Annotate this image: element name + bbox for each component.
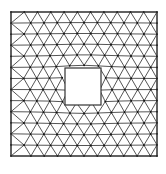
mesh-node: [117, 100, 119, 102]
mesh-node: [62, 101, 64, 103]
mesh-edge: [37, 112, 43, 123]
mesh-node: [30, 44, 32, 46]
mesh-node: [130, 100, 132, 102]
mesh-edge: [117, 12, 124, 23]
mesh-edge: [56, 78, 62, 90]
mesh-edge: [30, 101, 36, 112]
mesh-node: [70, 134, 72, 136]
mesh-node: [97, 22, 99, 24]
mesh-edge: [105, 55, 112, 66]
mesh-node: [143, 78, 145, 80]
mesh-edge: [77, 12, 84, 23]
mesh-edge: [138, 112, 145, 123]
mesh-edge: [56, 66, 69, 67]
mesh-edge: [131, 134, 138, 145]
mesh-edge: [64, 113, 70, 124]
mesh-edge: [138, 67, 145, 78]
mesh-edge: [44, 23, 51, 34]
mesh-node: [118, 77, 120, 79]
mesh-edge: [131, 90, 138, 101]
mesh-edge: [118, 112, 125, 123]
mesh-edge: [111, 23, 118, 34]
mesh-edge: [11, 112, 24, 123]
mesh-edge: [11, 34, 24, 45]
mesh-edge: [104, 12, 111, 23]
mesh-edge: [11, 134, 24, 145]
mesh-edge: [63, 55, 69, 66]
mesh-edge: [91, 55, 98, 66]
mesh-edge: [118, 90, 125, 102]
mesh-edge: [24, 23, 31, 34]
mesh-node: [111, 66, 113, 68]
mesh-edge: [105, 102, 111, 113]
mesh-node: [30, 133, 32, 135]
mesh-edge: [77, 34, 84, 45]
mesh-node: [105, 77, 107, 79]
mesh-edge: [24, 112, 31, 123]
mesh-edge: [151, 112, 157, 123]
mesh-edge: [144, 101, 151, 112]
mesh-edge: [51, 12, 58, 23]
mesh-edge: [117, 134, 124, 145]
mesh-node: [90, 33, 92, 35]
mesh-node: [36, 55, 38, 57]
mesh-node: [83, 64, 85, 66]
mesh-node: [29, 89, 31, 91]
mesh-node: [90, 54, 92, 56]
mesh-edge: [71, 12, 78, 23]
mesh-edge: [131, 23, 138, 34]
mesh-edge: [111, 12, 118, 23]
mesh-edge: [112, 90, 118, 101]
mesh-edge: [91, 12, 98, 23]
mesh-node: [50, 33, 52, 35]
mesh-node: [150, 111, 152, 113]
mesh-node: [150, 89, 152, 91]
mesh-edge: [44, 112, 51, 123]
mesh-node: [137, 89, 139, 91]
inner-hole: [65, 68, 101, 105]
mesh-edge: [111, 123, 118, 134]
mesh-node: [150, 44, 152, 46]
mesh-edge: [50, 101, 63, 102]
mesh-edge: [56, 67, 62, 78]
mesh-edge: [24, 67, 31, 78]
mesh-edge: [91, 135, 98, 146]
mesh-edge: [30, 90, 37, 101]
mesh-edge: [137, 123, 144, 134]
mesh-edge: [151, 23, 158, 34]
mesh-node: [23, 144, 25, 146]
mesh-edge: [98, 113, 111, 114]
mesh-edge: [91, 44, 98, 55]
mesh-node: [103, 33, 105, 35]
mesh-node: [117, 144, 119, 146]
mesh-edge: [151, 101, 157, 112]
mesh-edge: [124, 45, 131, 56]
mesh-node: [55, 66, 57, 68]
mesh-edge: [64, 34, 71, 45]
mesh-edge: [58, 145, 64, 156]
mesh-node: [111, 89, 113, 91]
mesh-edge: [71, 34, 78, 45]
mesh-edge: [144, 56, 151, 67]
mesh-edge: [91, 113, 98, 124]
mesh-edge: [137, 12, 143, 23]
mesh-edge: [50, 78, 56, 90]
mesh-edge: [104, 124, 111, 135]
mesh-edge: [151, 79, 157, 90]
mesh-edge: [44, 134, 51, 145]
mesh-edge: [31, 12, 38, 23]
mesh-node: [110, 22, 112, 24]
mesh-edge: [44, 101, 50, 112]
mesh-edge: [97, 12, 104, 23]
mesh-edge: [30, 112, 37, 123]
mesh-edge: [30, 67, 36, 78]
mesh-edge: [84, 124, 91, 135]
mesh-edge: [11, 45, 24, 56]
mesh-node: [143, 55, 145, 57]
mesh-edge: [118, 45, 124, 56]
mesh-edge: [44, 12, 51, 23]
mesh-edge: [50, 101, 57, 112]
mesh-node: [130, 77, 132, 79]
mesh-edge: [57, 113, 70, 114]
mesh-edge: [84, 44, 91, 55]
